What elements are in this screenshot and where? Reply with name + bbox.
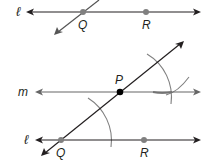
- point-p-label: P: [115, 73, 123, 87]
- bottom-line-l-label: ℓ: [24, 132, 29, 147]
- top-point-q: [80, 9, 86, 15]
- bottom-point-r: [141, 137, 147, 143]
- bottom-point-q: [58, 137, 64, 143]
- geometry-construction-figure: ℓ Q R m P ℓ Q R: [0, 0, 211, 162]
- top-point-r: [143, 9, 149, 15]
- bottom-point-r-label: R: [140, 146, 149, 160]
- top-panel: ℓ Q R: [16, 0, 201, 35]
- bottom-panel: m P ℓ Q R: [18, 41, 201, 160]
- transversal-upper-arrowhead: [175, 41, 184, 49]
- transversal-lower-arrowhead: [41, 148, 50, 156]
- top-point-r-label: R: [142, 18, 151, 32]
- transversal-qp: [45, 44, 180, 153]
- line-m-label: m: [18, 85, 28, 99]
- top-transversal-arrowhead: [54, 27, 63, 35]
- top-line-l-label: ℓ: [16, 4, 21, 19]
- point-p: [117, 89, 124, 96]
- top-point-q-label: Q: [78, 18, 87, 32]
- bottom-point-q-label: Q: [56, 146, 65, 160]
